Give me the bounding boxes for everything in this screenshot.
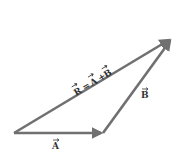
vector-b-arrow	[103, 41, 170, 133]
vector-diagram: A B R = A + B	[0, 0, 182, 158]
label-b-text: B	[141, 90, 149, 100]
label-a-text: A	[51, 141, 60, 151]
label-b: B	[141, 88, 149, 101]
label-a: A	[51, 139, 60, 152]
label-resultant-equation: R = A + B	[70, 64, 114, 98]
